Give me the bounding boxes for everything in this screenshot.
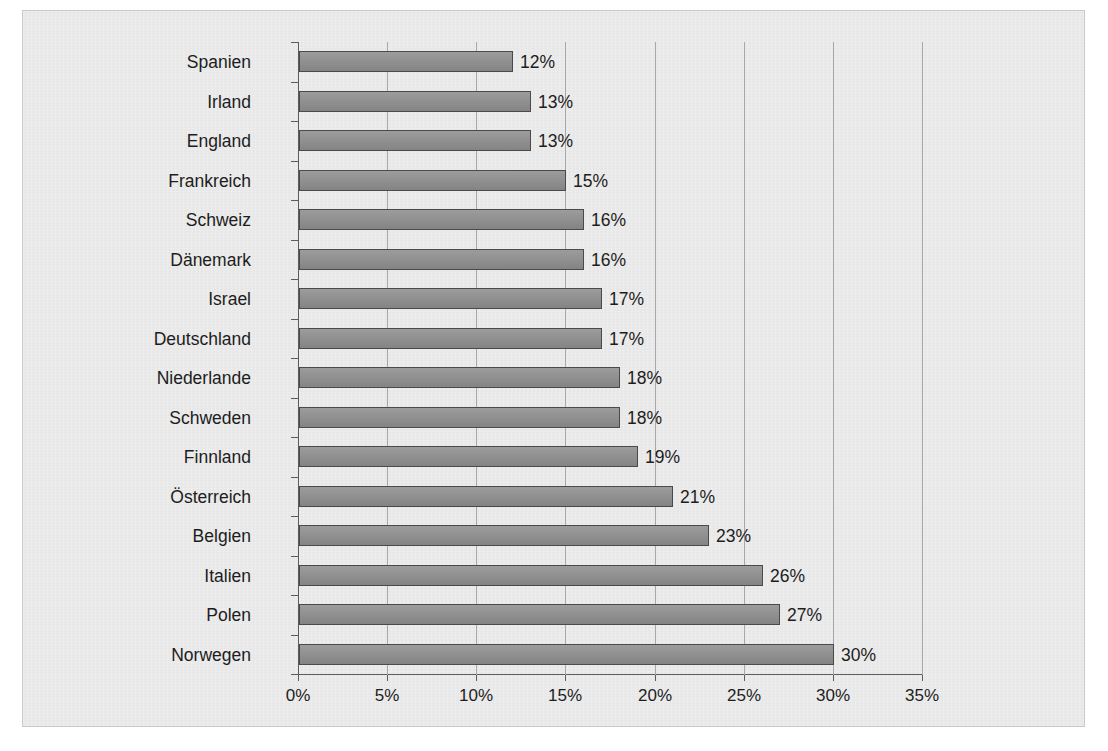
bar[interactable] [299,525,709,546]
category-label: Polen [206,607,251,625]
bar[interactable] [299,604,780,625]
bar-value-label: 26% [770,568,805,586]
x-axis-tick [565,675,566,681]
y-axis-tick [291,200,299,201]
category-label: Niederlande [157,370,251,388]
x-axis-tick-label: 35% [905,686,939,706]
y-axis-tick [291,121,299,122]
y-axis-tick [291,556,299,557]
bar-value-label: 30% [841,647,876,665]
category-label: Italien [204,568,251,586]
bar[interactable] [299,130,531,151]
bar-value-label: 27% [787,607,822,625]
bar-value-label: 19% [645,449,680,467]
bar-value-label: 23% [716,528,751,546]
bar-value-label: 15% [573,173,608,191]
category-label: Irland [207,94,251,112]
gridline [922,42,923,675]
bar-chart: 0%5%10%15%20%25%30%35% Spanien12%Irland1… [23,11,1084,726]
category-label: Norwegen [171,647,251,665]
x-axis-tick-label: 25% [727,686,761,706]
bar[interactable] [299,249,584,270]
bar[interactable] [299,288,602,309]
category-label: Frankreich [168,173,251,191]
x-axis-tick-label: 30% [816,686,850,706]
bar[interactable] [299,91,531,112]
x-axis-tick [922,675,923,681]
y-axis-tick [291,240,299,241]
y-axis-tick [291,279,299,280]
category-label: England [187,133,251,151]
bar-value-label: 18% [627,410,662,428]
category-label: Belgien [193,528,251,546]
category-label: Deutschland [154,331,251,349]
bar[interactable] [299,407,620,428]
bar-value-label: 18% [627,370,662,388]
x-axis-tick-label: 15% [548,686,582,706]
bar[interactable] [299,446,638,467]
bar[interactable] [299,486,673,507]
x-axis-tick [744,675,745,681]
bar-value-label: 12% [520,54,555,72]
y-axis-tick [291,635,299,636]
chart-figure-panel: 0%5%10%15%20%25%30%35% Spanien12%Irland1… [22,10,1085,727]
y-axis-tick [291,398,299,399]
bar[interactable] [299,565,763,586]
x-axis-tick-label: 5% [375,686,400,706]
bar-value-label: 16% [591,252,626,270]
bar[interactable] [299,170,566,191]
bar[interactable] [299,328,602,349]
y-axis-tick [291,437,299,438]
x-axis-tick-label: 10% [459,686,493,706]
x-axis-tick [387,675,388,681]
category-label: Israel [208,291,251,309]
y-axis-tick [291,161,299,162]
y-axis-tick [291,358,299,359]
bar-value-label: 13% [538,94,573,112]
category-label: Finnland [184,449,251,467]
category-label: Schweden [169,410,251,428]
bar-value-label: 17% [609,291,644,309]
gridline [833,42,834,675]
bar[interactable] [299,644,834,665]
category-label: Schweiz [186,212,251,230]
bar[interactable] [299,51,513,72]
y-axis-tick [291,595,299,596]
x-axis-tick [655,675,656,681]
y-axis-tick [291,477,299,478]
y-axis-tick [291,42,299,43]
x-axis-line [298,674,922,675]
x-axis-tick [833,675,834,681]
x-axis-tick-label: 0% [286,686,311,706]
bar-value-label: 16% [591,212,626,230]
bar[interactable] [299,209,584,230]
category-label: Spanien [187,54,251,72]
bar-value-label: 13% [538,133,573,151]
y-axis-tick [291,82,299,83]
bar-value-label: 17% [609,331,644,349]
category-label: Österreich [170,489,251,507]
bar-value-label: 21% [680,489,715,507]
x-axis-tick [476,675,477,681]
y-axis-tick [291,674,299,675]
x-axis-tick [298,675,299,681]
bar[interactable] [299,367,620,388]
y-axis-tick [291,319,299,320]
x-axis-tick-label: 20% [638,686,672,706]
category-label: Dänemark [170,252,251,270]
y-axis-tick [291,516,299,517]
